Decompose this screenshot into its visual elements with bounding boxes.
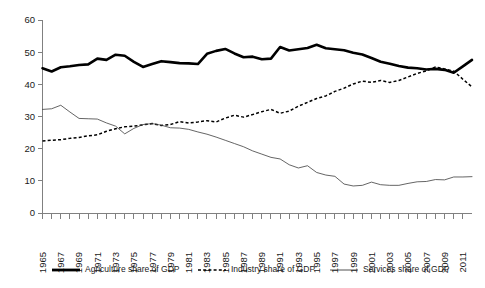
y-tick-label: 60 [24,14,35,25]
legend-label: Industry share of GDP [231,264,315,274]
series-line-agriculture [43,45,473,73]
series-line-industry [43,67,473,141]
y-tick-label: 30 [24,111,35,122]
y-tick-group: 0102030405060 [24,14,42,218]
y-tick-label: 50 [24,47,35,58]
y-tick-label: 40 [24,79,35,90]
series-group [43,45,473,186]
y-tick-label: 20 [24,143,35,154]
legend-item-industry: Industry share of GDP [198,264,315,274]
x-tick-label: 1965 [37,252,48,273]
y-tick-label: 10 [24,175,35,186]
y-axis-group: 0102030405060 [24,14,42,218]
legend-label: Services share of GDP [363,264,450,274]
chart-legend: Agriculture share of GDPIndustry share o… [52,264,450,274]
chart-container: 0102030405060 19651967196919711973197519… [0,0,485,288]
line-chart: 0102030405060 19651967196919711973197519… [0,0,485,288]
legend-item-agriculture: Agriculture share of GDP [52,264,180,274]
series-line-services [43,105,473,186]
x-tick-label: 1981 [183,252,194,273]
legend-label: Agriculture share of GDP [85,264,180,274]
x-tick-label: 2011 [457,252,468,272]
y-tick-label: 0 [30,207,35,218]
